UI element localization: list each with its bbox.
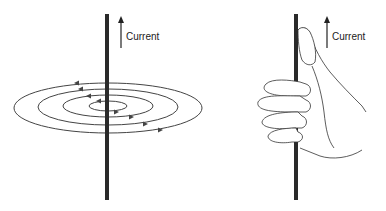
arrow-icon (96, 99, 101, 104)
current-label: Current (126, 31, 160, 42)
arrow-icon (86, 94, 91, 99)
right-hand-icon (258, 28, 366, 158)
wire (105, 14, 109, 200)
left-panel: Current (14, 14, 202, 200)
right-panel: Current (258, 14, 366, 200)
current-label: Current (332, 31, 366, 42)
diagram-canvas: Current Current (0, 0, 386, 211)
